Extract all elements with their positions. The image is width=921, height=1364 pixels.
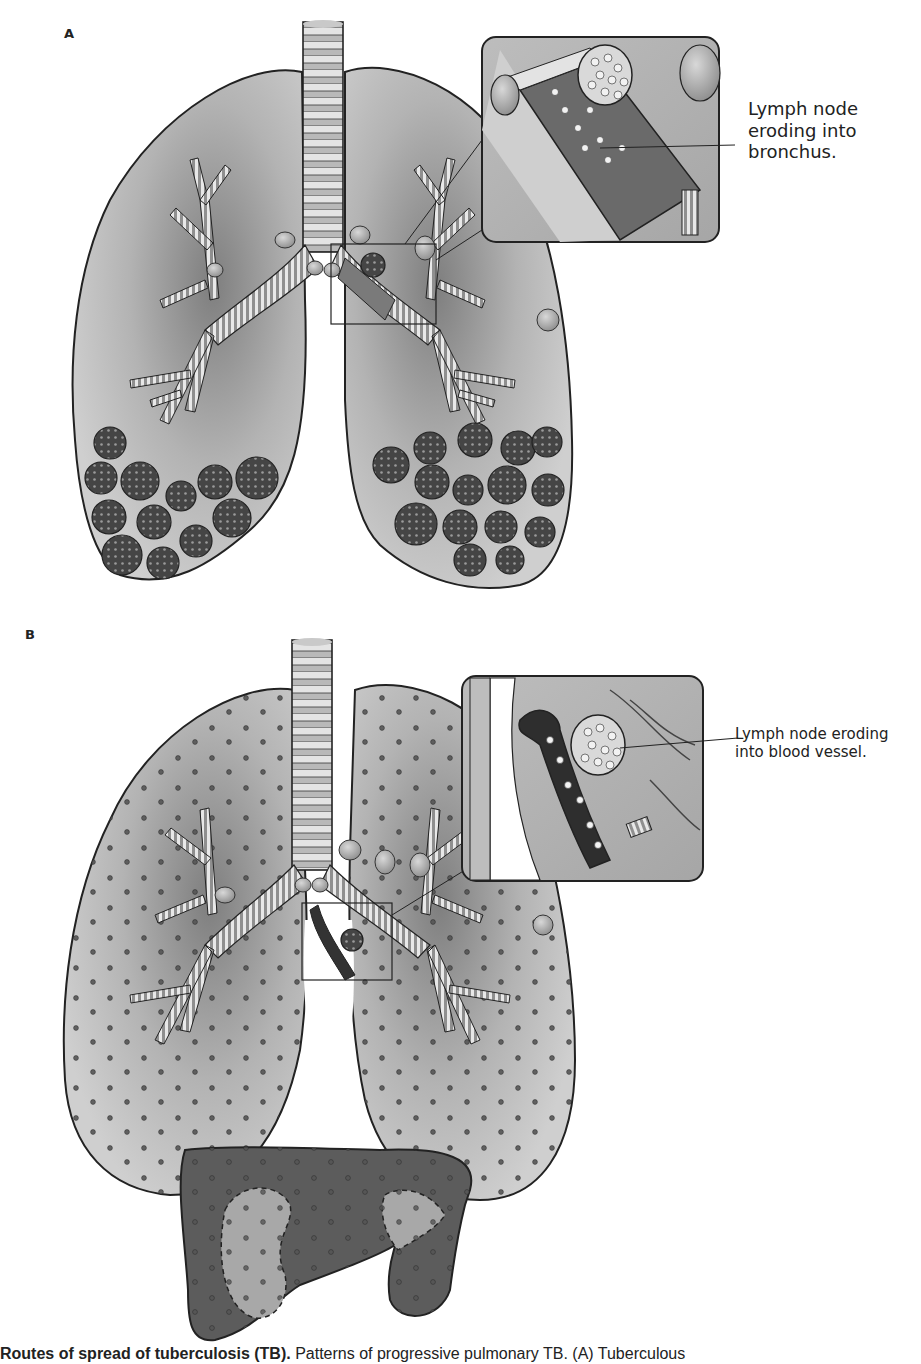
callout-a-line-1: Lymph node [748,98,858,120]
tb-spread-illustration [0,0,921,1364]
callout-b-line-1: Lymph node eroding [735,725,888,743]
caption-text: Patterns of progressive pulmonary TB. (A… [291,1345,686,1362]
trachea-a [303,22,343,252]
inset-b [462,676,738,881]
caption-title: Routes of spread of tuberculosis (TB). [0,1345,291,1362]
peripheral-node [537,309,559,331]
callout-a-line-3: bronchus. [748,141,858,163]
inset-a [482,37,735,242]
trachea-b [292,640,332,870]
peripheral-node-b [533,915,553,935]
panel-label-a: A [64,26,74,41]
caseous-node-b [341,929,363,951]
callout-b-line-2: into blood vessel. [735,743,888,761]
callout-a: Lymph node eroding into bronchus. [748,98,858,163]
caseous-node-a [361,253,385,277]
liver-miliary [181,1147,472,1340]
panel-label-b: B [25,627,35,642]
figure-caption: Routes of spread of tuberculosis (TB). P… [0,1345,921,1363]
callout-a-line-2: eroding into [748,120,858,142]
callout-b: Lymph node eroding into blood vessel. [735,725,888,761]
